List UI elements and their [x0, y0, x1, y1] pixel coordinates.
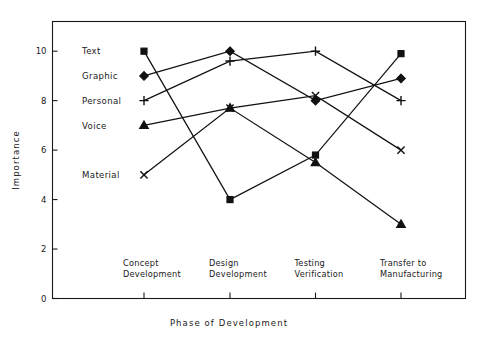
data-point-diamond [397, 74, 405, 82]
series-line [144, 51, 401, 100]
x-tick-label: Development [123, 269, 181, 279]
data-point-square [141, 48, 147, 54]
data-point-cross [397, 147, 404, 154]
legend-label-graphic: Graphic [82, 71, 118, 81]
x-tick-label: Manufacturing [380, 269, 443, 279]
data-point-cross [140, 171, 147, 178]
y-tick-label: 6 [41, 145, 46, 155]
chart-figure: 0246810ImportanceConceptDevelopmentDesig… [0, 0, 493, 342]
series-voice [140, 104, 406, 228]
data-point-plus [139, 96, 148, 105]
y-axis-title: Importance [11, 130, 21, 190]
data-point-triangle [397, 220, 406, 228]
y-tick-label: 0 [41, 294, 46, 304]
x-tick-label: Transfer to [379, 258, 427, 268]
y-tick-label: 2 [41, 244, 46, 254]
legend-label-material: Material [82, 170, 120, 180]
data-point-plus [225, 56, 234, 65]
legend-label-voice: Voice [82, 121, 107, 131]
data-point-square [227, 197, 233, 203]
data-point-plus [311, 47, 320, 56]
y-tick-label: 4 [41, 195, 46, 205]
y-tick-label: 8 [41, 96, 46, 106]
data-point-triangle [311, 158, 320, 166]
legend: TextGraphicPersonalVoiceMaterial [81, 46, 121, 180]
data-point-diamond [140, 72, 148, 80]
x-tick-label: Testing [294, 258, 326, 268]
x-tick-label: Design [209, 258, 239, 268]
data-point-square [398, 51, 404, 57]
legend-label-text: Text [81, 46, 101, 56]
y-axis: 0246810 [36, 46, 58, 303]
x-axis-title: Phase of Development [170, 318, 288, 328]
series-text [141, 48, 404, 202]
data-point-plus [396, 96, 405, 105]
data-point-diamond [226, 47, 234, 55]
x-axis: ConceptDevelopmentDesignDevelopmentTesti… [123, 258, 443, 299]
line-chart-canvas: 0246810ImportanceConceptDevelopmentDesig… [0, 0, 493, 342]
legend-label-personal: Personal [82, 96, 121, 106]
x-tick-label: Development [209, 269, 267, 279]
y-tick-label: 10 [36, 46, 47, 56]
x-tick-label: Concept [123, 258, 159, 268]
x-tick-label: Verification [295, 269, 344, 279]
